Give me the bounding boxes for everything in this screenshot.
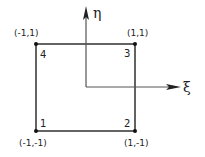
node-1-dot bbox=[34, 129, 38, 133]
eta-axis-label: η bbox=[93, 5, 101, 21]
node-2-dot bbox=[133, 129, 137, 133]
node-2-number: 2 bbox=[124, 118, 130, 129]
node-1-coords: (-1,-1) bbox=[19, 138, 47, 148]
node-4-dot bbox=[34, 42, 38, 46]
xi-axis-label: ξ bbox=[183, 79, 191, 95]
node-3-number: 3 bbox=[124, 48, 130, 59]
node-1-number: 1 bbox=[40, 118, 46, 129]
node-2-coords: (1,-1) bbox=[124, 138, 149, 148]
node-4-number: 4 bbox=[40, 49, 46, 60]
node-3-coords: (1,1) bbox=[127, 28, 148, 38]
node-4-coords: (-1,1) bbox=[14, 28, 39, 38]
node-3-dot bbox=[133, 42, 137, 46]
isoparametric-element-diagram: η ξ 1 2 3 4 (-1,-1) (1,-1) (1,1) (-1,1) bbox=[0, 0, 205, 157]
